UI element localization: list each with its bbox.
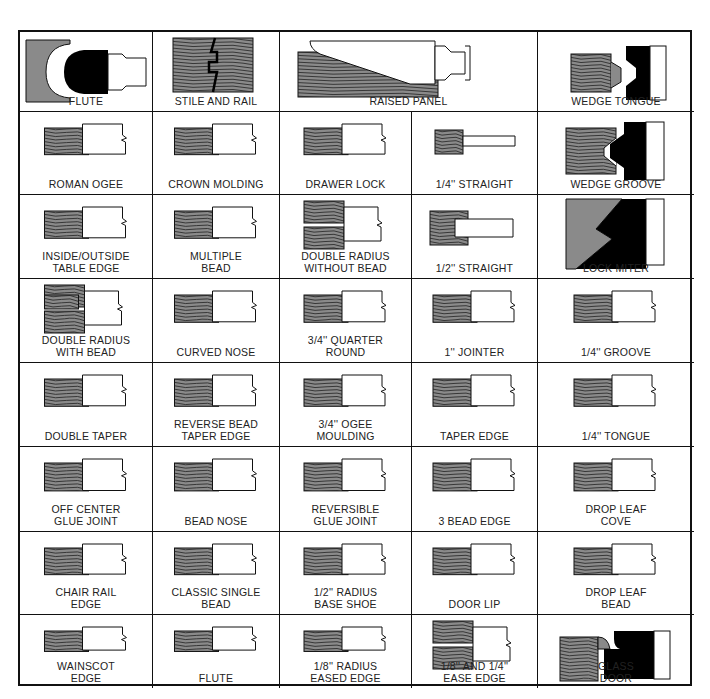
profile-label: DOOR LIP <box>412 598 537 610</box>
profile-cell: 3/4'' OGEE MOULDING <box>280 363 412 447</box>
profile-cell: WEDGE GROOVE <box>538 112 694 195</box>
profile-label: 1/4'' GROOVE <box>538 346 694 358</box>
profile-cell: INSIDE/OUTSIDE TABLE EDGE <box>20 195 153 279</box>
profile-label: DOUBLE RADIUS WITHOUT BEAD <box>280 250 411 274</box>
profile-label: MULTIPLE BEAD <box>153 250 279 274</box>
profile-cell: BEAD NOSE <box>153 447 280 532</box>
router-bit-profile-chart: FLUTESTILE AND RAILRAISED PANELWEDGE TON… <box>18 30 692 686</box>
profile-cell: DOOR LIP <box>412 532 538 615</box>
profile-cell: STILE AND RAIL <box>153 32 280 112</box>
profile-cell: CURVED NOSE <box>153 279 280 363</box>
profile-label: FLUTE <box>153 672 279 684</box>
profile-label: 1/2'' STRAIGHT <box>412 262 537 274</box>
profile-label: 3/4'' OGEE MOULDING <box>280 418 411 442</box>
profile-label: 3 BEAD EDGE <box>412 515 537 527</box>
profile-cell: GLASS DOOR <box>538 615 694 688</box>
profile-label: 1/4'' TONGUE <box>538 430 694 442</box>
profile-label: CLASSIC SINGLE BEAD <box>153 586 279 610</box>
profile-cell: WEDGE TONGUE <box>538 32 694 112</box>
profile-label: GLASS DOOR <box>538 660 694 684</box>
profile-label: WEDGE TONGUE <box>538 95 694 107</box>
profile-cell: REVERSIBLE GLUE JOINT <box>280 447 412 532</box>
profile-cell: 1/8'' RADIUS EASED EDGE <box>280 615 412 688</box>
profile-cell: 1/4'' TONGUE <box>538 363 694 447</box>
profile-cell: RAISED PANEL <box>280 32 538 112</box>
profile-label: INSIDE/OUTSIDE TABLE EDGE <box>20 250 152 274</box>
profile-cell: ROMAN OGEE <box>20 112 153 195</box>
profile-label: WEDGE GROOVE <box>538 178 694 190</box>
profile-cell: DOUBLE TAPER <box>20 363 153 447</box>
profile-label: FLUTE <box>20 95 152 107</box>
profile-label: 1'' JOINTER <box>412 346 537 358</box>
profile-cell: 1/8'' AND 1/4'' EASE EDGE <box>412 615 538 688</box>
profile-cell: FLUTE <box>153 615 280 688</box>
profile-cell: 3/4'' QUARTER ROUND <box>280 279 412 363</box>
profile-cell: 1/2'' RADIUS BASE SHOE <box>280 532 412 615</box>
profile-label: 1/2'' RADIUS BASE SHOE <box>280 586 411 610</box>
profile-cell: DRAWER LOCK <box>280 112 412 195</box>
profile-cell: DROP LEAF BEAD <box>538 532 694 615</box>
profile-label: OFF CENTER GLUE JOINT <box>20 503 152 527</box>
profile-cell: CLASSIC SINGLE BEAD <box>153 532 280 615</box>
profile-label: ROMAN OGEE <box>20 178 152 190</box>
profile-cell: DOUBLE RADIUS WITHOUT BEAD <box>280 195 412 279</box>
profile-cell: LOCK MITER <box>538 195 694 279</box>
profile-label: 3/4'' QUARTER ROUND <box>280 334 411 358</box>
profile-cell: TAPER EDGE <box>412 363 538 447</box>
profile-label: WAINSCOT EDGE <box>20 660 152 684</box>
profile-label: REVERSE BEAD TAPER EDGE <box>153 418 279 442</box>
profile-label: DOUBLE TAPER <box>20 430 152 442</box>
profile-label: 1/8'' RADIUS EASED EDGE <box>280 660 411 684</box>
profile-label: DRAWER LOCK <box>280 178 411 190</box>
profile-cell: CHAIR RAIL EDGE <box>20 532 153 615</box>
profile-cell: OFF CENTER GLUE JOINT <box>20 447 153 532</box>
profile-label: CURVED NOSE <box>153 346 279 358</box>
profile-label: REVERSIBLE GLUE JOINT <box>280 503 411 527</box>
profile-label: 1/8'' AND 1/4'' EASE EDGE <box>412 660 537 684</box>
profile-label: TAPER EDGE <box>412 430 537 442</box>
profile-label: BEAD NOSE <box>153 515 279 527</box>
profile-label: 1/4'' STRAIGHT <box>412 178 537 190</box>
profile-cell: DROP LEAF COVE <box>538 447 694 532</box>
profile-label: RAISED PANEL <box>280 95 537 107</box>
profile-cell: MULTIPLE BEAD <box>153 195 280 279</box>
profile-cell: REVERSE BEAD TAPER EDGE <box>153 363 280 447</box>
profile-cell: 1/4'' GROOVE <box>538 279 694 363</box>
profile-cell: CROWN MOLDING <box>153 112 280 195</box>
profile-cell: WAINSCOT EDGE <box>20 615 153 688</box>
profile-label: CROWN MOLDING <box>153 178 279 190</box>
profile-cell: 1'' JOINTER <box>412 279 538 363</box>
profile-label: LOCK MITER <box>538 262 694 274</box>
profile-label: DOUBLE RADIUS WITH BEAD <box>20 334 152 358</box>
profile-cell: 1/2'' STRAIGHT <box>412 195 538 279</box>
profile-label: DROP LEAF COVE <box>538 503 694 527</box>
profile-cell: DOUBLE RADIUS WITH BEAD <box>20 279 153 363</box>
profile-label: CHAIR RAIL EDGE <box>20 586 152 610</box>
profile-cell: 3 BEAD EDGE <box>412 447 538 532</box>
profile-label: DROP LEAF BEAD <box>538 586 694 610</box>
profile-cell: 1/4'' STRAIGHT <box>412 112 538 195</box>
profile-cell: FLUTE <box>20 32 153 112</box>
profile-label: STILE AND RAIL <box>153 95 279 107</box>
